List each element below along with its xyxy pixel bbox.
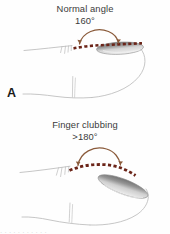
panel-normal-angle: Normal angle 160° xyxy=(0,0,170,117)
normal-finger-illustration xyxy=(0,0,170,117)
angle-arc xyxy=(77,30,121,44)
panel-finger-clubbing: Finger clubbing >180° xyxy=(0,117,170,234)
angle-arc xyxy=(76,148,123,165)
clubbed-finger-illustration xyxy=(0,117,170,234)
panel-letter-a: A xyxy=(7,86,16,100)
finger-clubbing-figure: Normal angle 160° xyxy=(0,0,170,234)
cropped-bottom-text: . . . . . . . . . . . xyxy=(0,226,170,234)
lovibond-angle-dotted-line xyxy=(70,164,136,175)
nail-plate xyxy=(96,170,151,203)
